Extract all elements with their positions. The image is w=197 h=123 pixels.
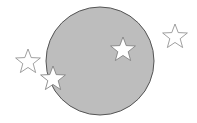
star-right-outside-icon	[163, 24, 188, 48]
gray-circle	[46, 7, 154, 115]
star-left-outside-icon	[16, 49, 41, 73]
diagram-canvas	[0, 0, 197, 123]
